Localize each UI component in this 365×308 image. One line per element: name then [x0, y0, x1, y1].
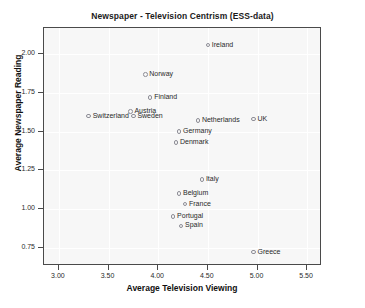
- data-point-marker: [206, 43, 211, 48]
- y-axis-tick: [38, 247, 43, 248]
- data-point-label: Germany: [183, 127, 212, 135]
- data-point-marker: [86, 114, 91, 119]
- y-axis-tick: [38, 92, 43, 93]
- data-point-marker: [177, 191, 182, 196]
- x-axis-tick: [306, 265, 307, 270]
- gridline-horizontal: [44, 170, 320, 171]
- data-point-label: Netherlands: [202, 116, 240, 124]
- data-point-marker: [177, 129, 182, 134]
- data-point-label: Switzerland: [93, 112, 129, 120]
- x-axis-tick: [58, 265, 59, 270]
- data-point-label: Spain: [185, 221, 203, 229]
- gridline-horizontal: [44, 209, 320, 210]
- gridline-vertical: [258, 28, 259, 264]
- gridline-horizontal: [44, 132, 320, 133]
- data-point-marker: [131, 114, 136, 119]
- data-point-marker: [143, 72, 148, 77]
- gridline-vertical: [307, 28, 308, 264]
- x-axis-tick: [157, 265, 158, 270]
- data-point-marker: [171, 214, 176, 219]
- data-point-label: Norway: [149, 70, 173, 78]
- data-point-label: Denmark: [180, 138, 208, 146]
- data-point-label: Greece: [258, 248, 281, 256]
- data-point-label: France: [189, 200, 211, 208]
- data-point-label: Finland: [154, 93, 177, 101]
- x-axis-tick: [257, 265, 258, 270]
- x-axis-tick-label: 4.00: [137, 272, 177, 279]
- y-axis-tick: [38, 131, 43, 132]
- y-axis-tick-label: 0.75: [0, 243, 35, 250]
- gridline-horizontal: [44, 93, 320, 94]
- y-axis-title: Average Newspaper Reading: [13, 0, 23, 232]
- data-point-marker: [183, 202, 188, 207]
- plot-area: IrelandNorwayFinlandAustriaSwedenSwitzer…: [43, 27, 321, 265]
- data-point-marker: [251, 250, 256, 255]
- x-axis-tick: [207, 265, 208, 270]
- x-axis-tick-label: 5.00: [237, 272, 277, 279]
- gridline-vertical: [208, 28, 209, 264]
- x-axis-tick-label: 4.50: [187, 272, 227, 279]
- y-axis-tick: [38, 53, 43, 54]
- gridline-vertical: [59, 28, 60, 264]
- x-axis-title: Average Television Viewing: [43, 283, 321, 293]
- data-point-marker: [179, 224, 184, 229]
- x-axis-tick-label: 3.00: [38, 272, 78, 279]
- data-point-label: UK: [258, 115, 268, 123]
- x-axis-tick-label: 3.50: [88, 272, 128, 279]
- chart-title: Newspaper - Television Centrism (ESS-dat…: [0, 11, 365, 21]
- gridline-horizontal: [44, 54, 320, 55]
- x-axis-tick-label: 5.50: [286, 272, 326, 279]
- data-point-label: Portugal: [177, 212, 203, 220]
- data-point-marker: [196, 118, 201, 123]
- y-axis-tick: [38, 169, 43, 170]
- data-point-marker: [251, 117, 256, 122]
- data-point-label: Ireland: [212, 41, 233, 49]
- data-point-marker: [148, 95, 153, 100]
- scatter-chart: Newspaper - Television Centrism (ESS-dat…: [0, 0, 365, 308]
- data-point-label: Belgium: [183, 189, 208, 197]
- x-axis-tick: [108, 265, 109, 270]
- gridline-vertical: [109, 28, 110, 264]
- data-point-marker: [200, 177, 205, 182]
- data-point-marker: [174, 140, 179, 145]
- gridline-vertical: [158, 28, 159, 264]
- y-axis-tick: [38, 208, 43, 209]
- data-point-label: Sweden: [137, 112, 162, 120]
- data-point-label: Italy: [206, 175, 219, 183]
